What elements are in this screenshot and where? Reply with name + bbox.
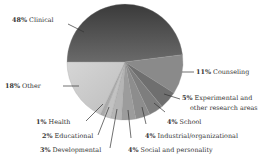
- label-counseling: 11% Counseling: [196, 68, 249, 76]
- slice-clinical: [67, 4, 183, 62]
- label-experimental: 5% Experimental and: [182, 94, 252, 102]
- label-other: 18% Other: [5, 82, 42, 90]
- label-developmental: 3% Developmental: [40, 146, 101, 154]
- pie-slices: [67, 4, 183, 120]
- label-school: 4% School: [167, 118, 201, 126]
- label-educational: 2% Educational: [42, 132, 93, 140]
- label-health: 1% Health: [36, 118, 70, 126]
- label-industrial: 4% Industrial/organizational: [145, 132, 238, 140]
- label-experimental-line2: other research areas: [190, 104, 258, 112]
- pie-chart: 48% Clinical 11% Counseling 5% Experimen…: [0, 0, 276, 162]
- label-clinical: 48% Clinical: [12, 16, 54, 24]
- label-social: 4% Social and personality: [128, 146, 213, 154]
